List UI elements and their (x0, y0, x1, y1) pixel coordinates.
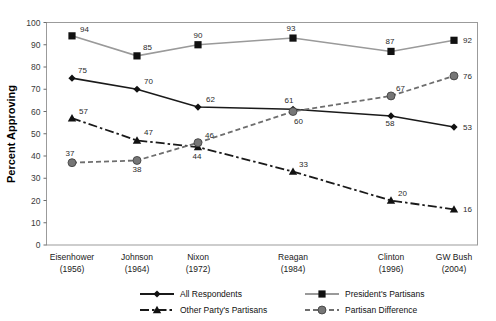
data-point-label: 67 (396, 84, 405, 93)
approval-line-chart: 0102030405060708090100 Percent Approving… (0, 0, 496, 321)
series-line (72, 118, 454, 209)
data-point-label: 44 (193, 152, 202, 161)
y-tick-label: 40 (31, 151, 41, 161)
y-tick-label: 0 (36, 240, 41, 250)
x-axis-category-year: (1964) (125, 264, 150, 274)
y-tick-label: 60 (31, 107, 41, 117)
series-line (72, 36, 454, 56)
y-tick-label: 90 (31, 40, 41, 50)
x-axis-category-labels: Eisenhower(1956)Johnson(1964)Nixon(1972)… (50, 252, 473, 274)
marker-square (68, 32, 75, 39)
plot-frame (47, 23, 478, 246)
data-point-label: 90 (194, 31, 203, 40)
series-1: 948590938792 (68, 24, 472, 59)
x-axis-category-name: Johnson (121, 252, 153, 262)
x-axis-category-year: (1972) (186, 264, 211, 274)
x-axis-category-year: (1996) (379, 264, 404, 274)
x-axis-category-name: Eisenhower (50, 252, 95, 262)
marker-square (387, 48, 394, 55)
data-point-label: 16 (463, 205, 472, 214)
data-point-label: 38 (133, 165, 142, 174)
data-point-label: 61 (285, 96, 294, 105)
y-axis-title: Percent Approving (5, 85, 17, 183)
marker-triangle (289, 167, 297, 174)
y-tick-label: 10 (31, 218, 41, 228)
marker-diamond (68, 75, 75, 82)
marker-diamond (450, 123, 457, 130)
marker-triangle (68, 114, 76, 121)
x-axis-category-year: (1956) (60, 264, 85, 274)
marker-square (133, 52, 140, 59)
legend-item-2[interactable]: Other Party's Partisans (140, 305, 267, 315)
x-axis-category-year: (2004) (442, 264, 467, 274)
y-axis-title-group: Percent Approving (5, 85, 17, 183)
marker-circle (133, 156, 141, 164)
data-point-label: 60 (294, 117, 303, 126)
data-point-label: 94 (80, 25, 89, 34)
y-tick-label: 20 (31, 196, 41, 206)
legend-item-3[interactable]: Partisan Difference (305, 305, 417, 315)
x-axis-category-name: Nixon (187, 252, 209, 262)
data-point-label: 58 (386, 119, 395, 128)
legend-label: All Respondents (180, 289, 242, 299)
data-point-label: 20 (398, 189, 407, 198)
y-tick-label: 30 (31, 173, 41, 183)
x-axis-category-year: (1984) (281, 264, 306, 274)
x-axis-category-name: GW Bush (436, 252, 473, 262)
marker-circle (450, 72, 458, 80)
marker-square (194, 41, 201, 48)
y-tick-label: 80 (31, 62, 41, 72)
data-point-label: 46 (205, 131, 214, 140)
series-0: 757062615853 (68, 66, 472, 132)
data-point-label: 33 (299, 160, 308, 169)
data-point-label: 62 (206, 95, 215, 104)
chart-legend: All RespondentsPresident's PartisansOthe… (140, 289, 425, 315)
legend-label: President's Partisans (345, 289, 425, 299)
y-tick-label: 70 (31, 84, 41, 94)
data-point-label: 75 (78, 66, 87, 75)
marker-circle (68, 159, 76, 167)
data-point-label: 93 (287, 24, 296, 33)
data-point-label: 85 (143, 43, 152, 52)
data-point-label: 70 (144, 77, 153, 86)
data-point-label: 37 (66, 149, 75, 158)
y-axis-ticks: 0102030405060708090100 (26, 18, 46, 251)
chart-container: 0102030405060708090100 Percent Approving… (0, 0, 496, 321)
marker-circle (387, 92, 395, 100)
marker-diamond (153, 290, 160, 297)
legend-label: Partisan Difference (345, 305, 417, 315)
data-point-label: 76 (463, 72, 472, 81)
legend-item-1[interactable]: President's Partisans (305, 289, 425, 299)
data-point-label: 47 (144, 128, 153, 137)
legend-item-0[interactable]: All Respondents (140, 289, 242, 299)
marker-diamond (194, 103, 201, 110)
marker-square (450, 37, 457, 44)
marker-square (289, 34, 296, 41)
data-point-label: 92 (463, 36, 472, 45)
x-axis-category-name: Reagan (278, 252, 308, 262)
marker-circle (194, 139, 202, 147)
marker-square (318, 290, 325, 297)
legend-label: Other Party's Partisans (180, 305, 267, 315)
plot-frame-group (47, 23, 478, 246)
marker-circle (318, 306, 326, 314)
data-point-label: 53 (463, 123, 472, 132)
data-point-label: 87 (386, 37, 395, 46)
marker-diamond (133, 86, 140, 93)
x-axis-category-name: Clinton (378, 252, 405, 262)
y-tick-label: 100 (26, 18, 40, 28)
y-tick-label: 50 (31, 129, 41, 139)
data-series-group: 7570626158539485909387925747443320163738… (66, 24, 473, 214)
data-point-label: 57 (79, 107, 88, 116)
marker-circle (289, 108, 297, 116)
